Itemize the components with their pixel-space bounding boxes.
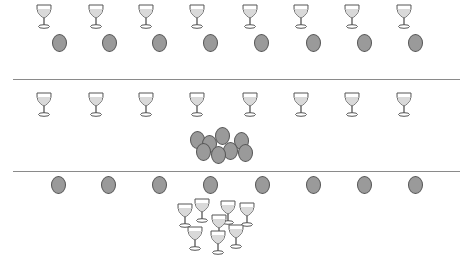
wine-glass-icon xyxy=(227,224,245,250)
oval-token xyxy=(408,176,423,194)
oval-token xyxy=(101,176,116,194)
oval-token xyxy=(52,34,67,52)
oval-token xyxy=(408,34,423,52)
wine-glass-icon xyxy=(343,92,361,118)
wine-glass-icon xyxy=(35,4,53,30)
oval-token xyxy=(203,34,218,52)
wine-glass-icon xyxy=(87,4,105,30)
oval-token xyxy=(238,144,253,162)
oval-token xyxy=(255,176,270,194)
oval-token xyxy=(152,34,167,52)
row-divider xyxy=(13,79,460,80)
wine-glass-icon xyxy=(292,4,310,30)
oval-token xyxy=(306,176,321,194)
wine-glass-icon xyxy=(292,92,310,118)
wine-glass-icon xyxy=(209,230,227,256)
oval-token xyxy=(203,176,218,194)
oval-token xyxy=(152,176,167,194)
wine-glass-icon xyxy=(188,4,206,30)
oval-token xyxy=(211,146,226,164)
wine-glass-icon xyxy=(188,92,206,118)
wine-glass-icon xyxy=(137,92,155,118)
oval-token xyxy=(51,176,66,194)
oval-token xyxy=(357,34,372,52)
wine-glass-icon xyxy=(186,226,204,252)
wine-glass-icon xyxy=(343,4,361,30)
wine-glass-icon xyxy=(395,92,413,118)
oval-token xyxy=(254,34,269,52)
oval-token xyxy=(102,34,117,52)
oval-token xyxy=(306,34,321,52)
wine-glass-icon xyxy=(193,198,211,224)
oval-token xyxy=(196,143,211,161)
row-divider xyxy=(13,171,460,172)
wine-glass-icon xyxy=(87,92,105,118)
wine-glass-icon xyxy=(241,4,259,30)
wine-glass-icon xyxy=(35,92,53,118)
wine-glass-icon xyxy=(137,4,155,30)
wine-glass-icon xyxy=(241,92,259,118)
wine-glass-icon xyxy=(395,4,413,30)
oval-token xyxy=(357,176,372,194)
